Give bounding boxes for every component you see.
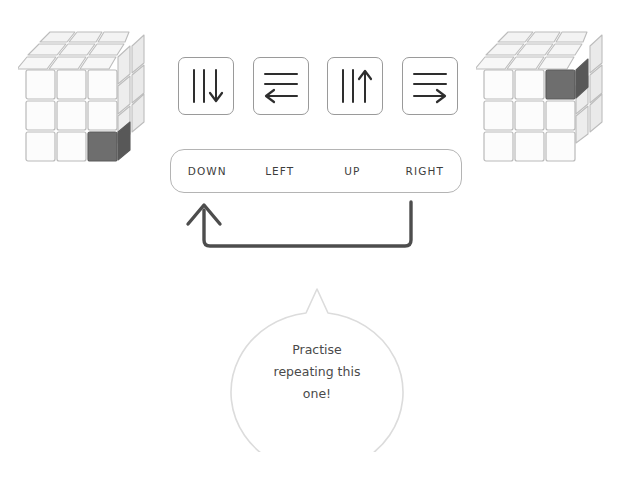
- arrow-left-icon: [261, 67, 301, 105]
- illustration-canvas: DOWN LEFT UP RIGHT Practise repeating th…: [0, 0, 631, 479]
- start-cube: [18, 22, 168, 162]
- move-label-down: DOWN: [171, 165, 244, 177]
- start-cube-front-face: [26, 70, 117, 161]
- repeat-loop-arrow: [180, 196, 445, 260]
- start-cube-svg: [18, 22, 168, 162]
- end-cube-front-face: [484, 70, 575, 161]
- repeat-loop-arrow-icon: [180, 196, 445, 260]
- move-labels-strip: DOWN LEFT UP RIGHT: [170, 149, 462, 193]
- start-cube-highlight-cubie: [88, 132, 117, 161]
- end-cube-top-face: [476, 32, 587, 69]
- speech-bubble: Practise repeating this one!: [222, 287, 412, 452]
- arrow-down-icon: [187, 66, 225, 106]
- move-card-left[interactable]: [253, 57, 309, 115]
- move-cards-row: [178, 57, 458, 119]
- end-cube-highlight-cubie: [546, 70, 575, 99]
- start-cube-right-face: [118, 35, 144, 143]
- move-card-up[interactable]: [327, 57, 383, 115]
- move-label-up: UP: [316, 165, 389, 177]
- start-cube-top-face: [18, 32, 129, 69]
- arrow-right-icon: [410, 67, 450, 105]
- move-card-down[interactable]: [178, 57, 234, 115]
- end-cube: [476, 22, 626, 162]
- arrow-up-icon: [336, 66, 374, 106]
- move-label-left: LEFT: [244, 165, 317, 177]
- end-cube-svg: [476, 22, 626, 162]
- move-label-right: RIGHT: [389, 165, 462, 177]
- speech-bubble-icon: [222, 287, 412, 452]
- move-card-right[interactable]: [402, 57, 458, 115]
